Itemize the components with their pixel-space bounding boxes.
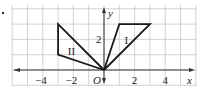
x-tick-label: 4 bbox=[162, 74, 168, 86]
x-tick-label: 2 bbox=[132, 74, 138, 86]
origin-label: O bbox=[93, 74, 101, 86]
x-tick-label: −2 bbox=[66, 74, 78, 86]
triangle-ii bbox=[58, 24, 104, 70]
x-axis-arrow-right-icon bbox=[189, 68, 195, 72]
triangle-i-label: I bbox=[125, 34, 129, 46]
y-axis-arrow-down-icon bbox=[102, 78, 106, 84]
y-tick-label: 2 bbox=[96, 33, 102, 45]
triangle-i bbox=[104, 24, 150, 70]
y-axis-label: y bbox=[107, 7, 113, 19]
x-tick-label: −4 bbox=[35, 74, 47, 86]
triangle-ii-label: II bbox=[68, 45, 76, 57]
axes bbox=[14, 7, 195, 84]
y-axis-arrow-up-icon bbox=[102, 7, 106, 13]
x-axis-arrow-left-icon bbox=[14, 68, 20, 72]
coordinate-plane: x y O −4−2242III bbox=[0, 0, 199, 91]
x-axis-label: x bbox=[186, 74, 192, 86]
